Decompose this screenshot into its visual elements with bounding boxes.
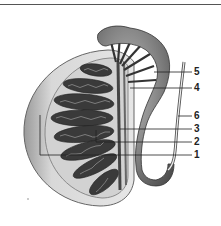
label-5: 5 xyxy=(194,67,200,77)
label-4: 4 xyxy=(194,83,200,93)
rete-testis xyxy=(118,62,120,190)
label-2: 2 xyxy=(194,137,200,147)
label-3: 3 xyxy=(194,124,200,134)
label-1: 1 xyxy=(194,150,200,160)
testis-diagram xyxy=(0,0,221,226)
label-6: 6 xyxy=(194,111,200,121)
